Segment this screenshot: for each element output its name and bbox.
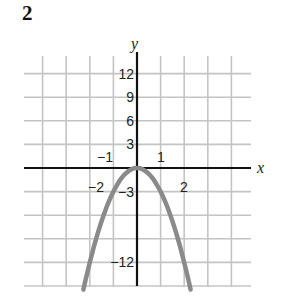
- y-tick-label: −3: [118, 184, 134, 200]
- parabola-chart: xy −2−11212963−3−12: [0, 0, 281, 298]
- x-axis-label: x: [256, 159, 264, 176]
- y-tick-label: 6: [126, 113, 134, 129]
- x-tick-label: 2: [180, 179, 188, 195]
- x-tick-label: −1: [97, 149, 113, 165]
- y-tick-label: −12: [110, 254, 134, 270]
- y-tick-label: 9: [126, 89, 134, 105]
- axes: xy: [24, 35, 264, 286]
- y-tick-label: 12: [118, 66, 134, 82]
- x-tick-label: 1: [157, 149, 165, 165]
- x-tick-label: −2: [88, 179, 104, 195]
- y-axis-label: y: [129, 35, 139, 53]
- y-tick-label: 3: [126, 136, 134, 152]
